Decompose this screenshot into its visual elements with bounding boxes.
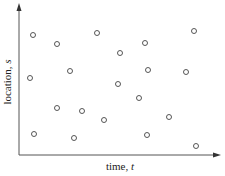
y-axis-label: location, s [1,59,13,104]
data-point [28,76,33,81]
data-point [116,82,121,87]
data-point [32,132,37,137]
data-point [72,136,77,141]
data-point [55,42,60,47]
data-points [28,29,199,149]
data-point [167,115,172,120]
data-point [102,118,107,123]
data-point [95,31,100,36]
data-point [194,144,199,149]
scatter-chart: time, t location, s [0,0,225,176]
data-point [143,41,148,46]
data-point [146,68,151,73]
data-point [80,109,85,114]
axes [17,3,222,158]
x-axis-arrow-icon [213,153,221,158]
y-axis-arrow-icon [17,3,22,11]
data-point [55,106,60,111]
data-point [118,51,123,56]
data-point [192,29,197,34]
data-point [184,70,189,75]
data-point [137,96,142,101]
data-point [145,133,150,138]
data-point [68,69,73,74]
x-axis-label: time, t [106,160,135,172]
data-point [31,33,36,38]
